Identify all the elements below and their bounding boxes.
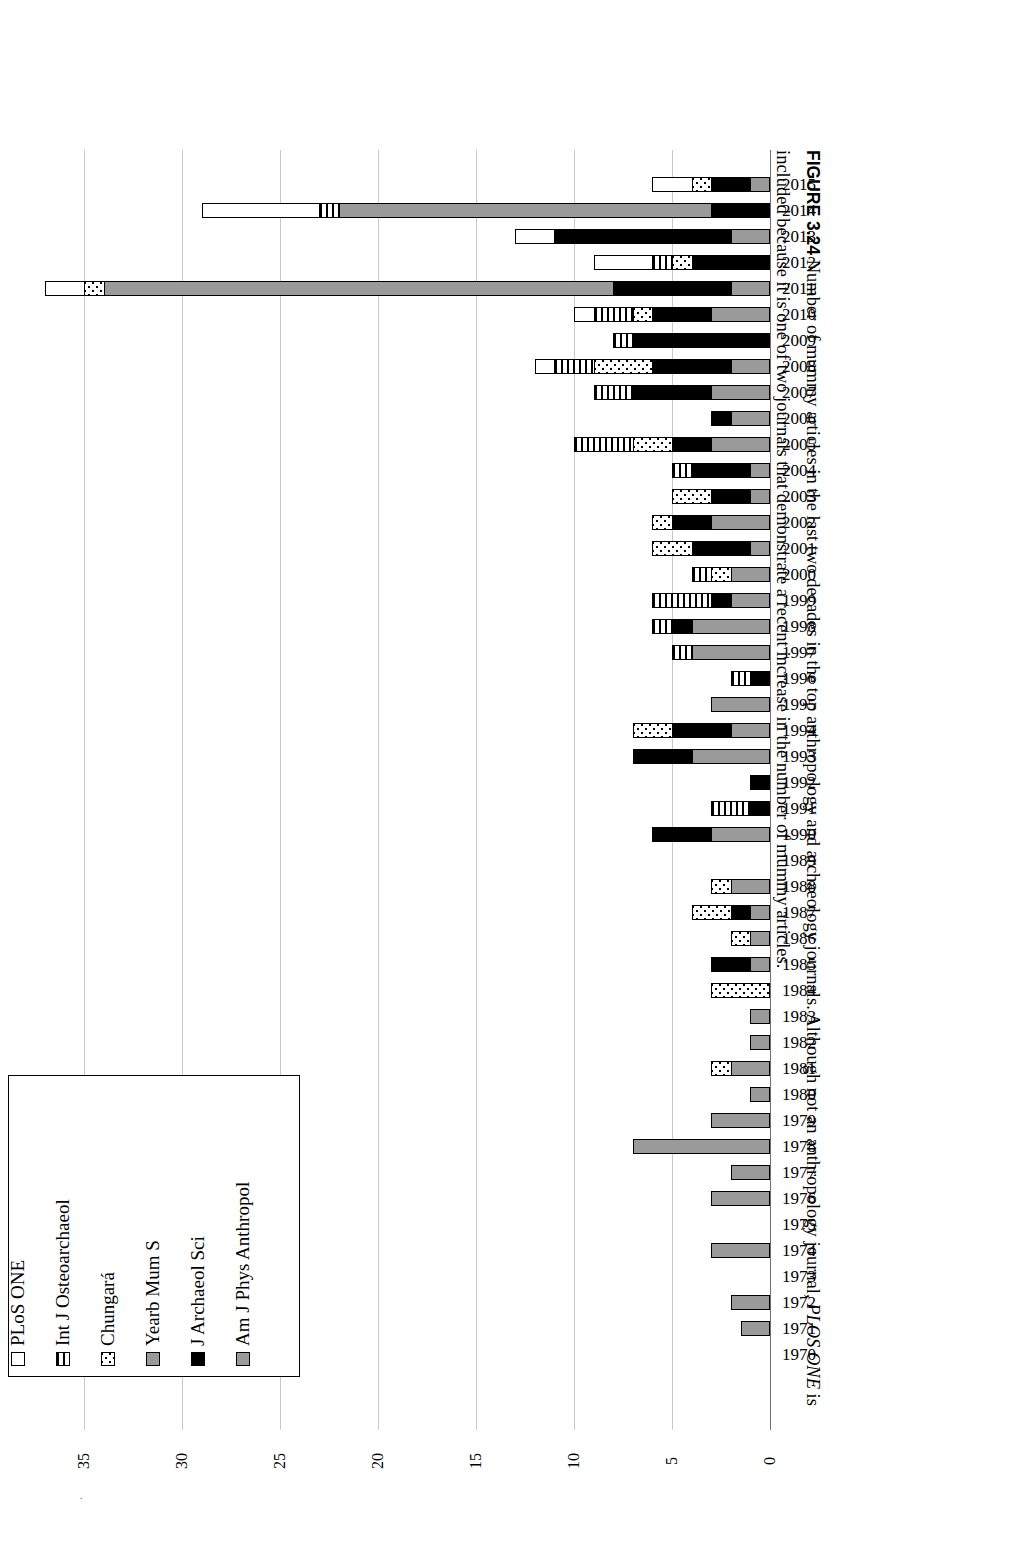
bar-segment-plos	[45, 281, 84, 296]
stacked-bar-2014	[202, 203, 770, 218]
bar-segment-jas	[672, 619, 692, 634]
legend-label-plos: PLoS ONE	[8, 1260, 27, 1346]
bar-row: 1988	[0, 874, 800, 900]
legend-item-chun: Chungará	[98, 1272, 117, 1366]
figure-caption: FIGURE 3.24 Number of mummy articles in …	[742, 150, 828, 1410]
x-tick-label-30: 30	[173, 1446, 191, 1476]
bar-row: 2002	[0, 510, 800, 536]
page-artifact-mark: .	[80, 1490, 83, 1501]
bar-segment-chun	[633, 307, 653, 322]
chart-legend: PLoS ONEInt J OsteoarchaeolChungaráYearb…	[8, 1075, 300, 1377]
bar-segment-ymum	[104, 281, 614, 296]
bar-row: 1998	[0, 614, 800, 640]
bar-segment-ijoa	[594, 385, 633, 400]
legend-label-jas: J Archaeol Sci	[188, 1236, 207, 1346]
legend-item-ajpa: Am J Phys Anthropol	[233, 1182, 252, 1366]
bar-segment-ijoa	[672, 645, 692, 660]
bar-segment-ijoa	[652, 593, 711, 608]
bar-segment-jas	[672, 723, 731, 738]
bar-segment-chun	[711, 1061, 731, 1076]
bar-row: 1996	[0, 666, 800, 692]
bar-row: 2006	[0, 406, 800, 432]
legend-swatch-chun-icon	[101, 1352, 115, 1366]
bar-row: 2008	[0, 354, 800, 380]
bar-row: 2005	[0, 432, 800, 458]
bar-row: 2014	[0, 198, 800, 224]
bar-segment-chun	[633, 437, 672, 452]
caption-text-1: Number of mummy articles in the last two…	[803, 260, 823, 1303]
bar-segment-jas	[633, 749, 692, 764]
bar-segment-chun	[652, 541, 691, 556]
bar-segment-chun	[84, 281, 104, 296]
x-tick-label-15: 15	[467, 1446, 485, 1476]
bar-row: 2009	[0, 328, 800, 354]
legend-label-ajpa: Am J Phys Anthropol	[233, 1182, 252, 1346]
bar-row: 1990	[0, 822, 800, 848]
bar-segment-ijoa	[672, 463, 692, 478]
bar-segment-ijoa	[692, 567, 712, 582]
x-tick-label-5: 5	[663, 1446, 681, 1476]
bar-row: 2000	[0, 562, 800, 588]
stacked-bar-2011	[45, 281, 770, 296]
bar-row: 2010	[0, 302, 800, 328]
bar-segment-plos	[202, 203, 320, 218]
bar-row: 1992	[0, 770, 800, 796]
bar-segment-chun	[672, 255, 692, 270]
bar-segment-jas	[652, 359, 730, 374]
bar-row: 2012	[0, 250, 800, 276]
bar-segment-plos	[652, 177, 691, 192]
x-tick-label-20: 20	[369, 1446, 387, 1476]
bar-segment-chun	[692, 177, 712, 192]
bar-segment-jas	[652, 827, 711, 842]
legend-item-ijoa: Int J Osteoarchaeol	[53, 1199, 72, 1366]
bar-segment-jas	[652, 307, 711, 322]
bar-segment-jas	[711, 593, 731, 608]
bar-segment-ijoa	[554, 359, 593, 374]
stacked-bar-2013	[515, 229, 770, 244]
bar-segment-plos	[535, 359, 555, 374]
bar-segment-ijoa	[574, 437, 633, 452]
bar-row: 2001	[0, 536, 800, 562]
bar-segment-chun	[711, 879, 731, 894]
bar-segment-chun	[672, 489, 711, 504]
bar-segment-plos	[594, 255, 653, 270]
legend-swatch-plos-icon	[11, 1352, 25, 1366]
bar-row: 1985	[0, 952, 800, 978]
bar-segment-ijoa	[594, 307, 633, 322]
bar-row: 2007	[0, 380, 800, 406]
bar-segment-plos	[574, 307, 594, 322]
bar-segment-chun	[594, 359, 653, 374]
legend-label-chun: Chungará	[98, 1272, 117, 1346]
bar-segment-chun	[633, 723, 672, 738]
bar-segment-chun	[692, 905, 731, 920]
bar-row: 1982	[0, 1030, 800, 1056]
bar-row: 1991	[0, 796, 800, 822]
bar-segment-jas	[633, 385, 711, 400]
figure-number: FIGURE 3.24	[803, 150, 823, 255]
bar-segment-ijoa	[652, 619, 672, 634]
x-tick-label-25: 25	[271, 1446, 289, 1476]
figure-page: 2015201420132012201120102009200820072006…	[0, 0, 1016, 1561]
bar-row: 1987	[0, 900, 800, 926]
bar-row: 2013	[0, 224, 800, 250]
bar-row: 1983	[0, 1004, 800, 1030]
bar-row: 1993	[0, 744, 800, 770]
bar-segment-chun	[711, 567, 731, 582]
stacked-bar-2010	[574, 307, 770, 322]
bar-segment-jas	[672, 437, 711, 452]
legend-label-ijoa: Int J Osteoarchaeol	[53, 1199, 72, 1346]
legend-swatch-jas-icon	[191, 1352, 205, 1366]
bar-segment-jas	[672, 515, 711, 530]
bar-row: 1989	[0, 848, 800, 874]
bar-segment-jas	[711, 411, 731, 426]
bar-segment-ymum	[339, 203, 711, 218]
legend-label-ymum: Yearb Mum S	[143, 1240, 162, 1346]
bar-row: 1997	[0, 640, 800, 666]
bar-row: 1995	[0, 692, 800, 718]
bar-row: 2015	[0, 172, 800, 198]
x-tick-label-10: 10	[565, 1446, 583, 1476]
stacked-bar-2005	[574, 437, 770, 452]
bar-segment-chun	[652, 515, 672, 530]
caption-italic-journal: PLOS ONE	[803, 1303, 823, 1389]
bar-row: 1984	[0, 978, 800, 1004]
